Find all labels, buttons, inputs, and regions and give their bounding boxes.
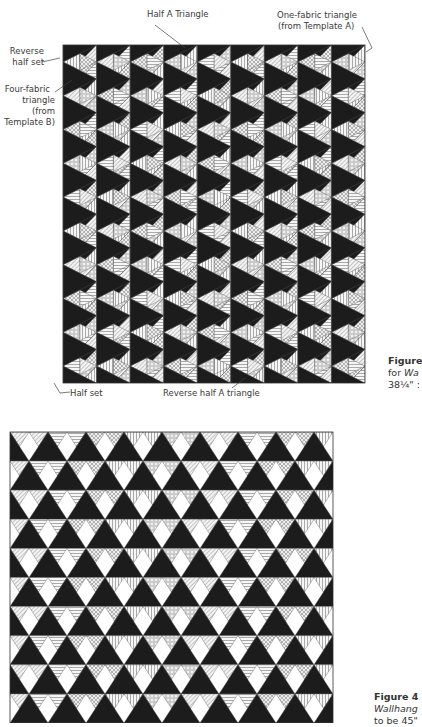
four-fabric-piece [343, 432, 362, 447]
four-fabric-piece [180, 400, 197, 417]
four-fabric-piece [298, 400, 315, 417]
one-fabric-triangle [0, 519, 10, 548]
four-fabric-piece [231, 20, 248, 37]
four-fabric-piece [197, 20, 214, 37]
one-fabric-triangle [0, 461, 10, 490]
four-fabric-piece [113, 28, 130, 45]
caption-bottom-italic: Wallhang [374, 703, 418, 714]
four-fabric-piece [0, 607, 10, 622]
four-fabric-piece [147, 383, 164, 400]
four-fabric-piece [180, 400, 197, 417]
four-fabric-piece [214, 28, 231, 45]
four-fabric-piece [214, 11, 231, 28]
four-fabric-piece [333, 665, 352, 680]
four-fabric-piece [130, 11, 147, 28]
four-fabric-piece [0, 592, 1, 607]
four-fabric-piece [147, 28, 164, 45]
four-fabric-piece [0, 534, 1, 549]
four-fabric-piece [298, 391, 315, 408]
four-fabric-piece [333, 519, 352, 534]
four-fabric-piece [331, 391, 348, 408]
four-fabric-piece [164, 20, 181, 37]
four-fabric-piece [231, 400, 248, 417]
one-fabric-triangle [298, 400, 332, 434]
four-fabric-piece [113, 383, 130, 400]
four-fabric-piece [348, 383, 365, 400]
four-fabric-piece [333, 636, 352, 651]
four-fabric-piece [0, 665, 10, 680]
four-fabric-piece [197, 28, 214, 45]
four-fabric-piece [0, 476, 1, 491]
four-fabric-piece [214, 400, 231, 417]
four-fabric-piece [0, 578, 1, 593]
four-fabric-piece [180, 20, 197, 37]
four-fabric-piece [264, 391, 281, 408]
four-fabric-piece [231, 28, 248, 45]
four-fabric-piece [333, 432, 352, 447]
four-fabric-piece [113, 11, 130, 28]
one-fabric-triangle [333, 665, 371, 694]
four-fabric-piece [281, 400, 298, 417]
caption-top-italic: Wa [404, 367, 419, 378]
four-fabric-piece [63, 28, 80, 45]
four-fabric-piece [348, 391, 365, 408]
four-fabric-piece [113, 400, 130, 417]
four-fabric-piece [348, 400, 365, 417]
label-reverse-half-a-triangle: Reverse half A triangle [163, 388, 260, 399]
one-fabric-triangle [97, 400, 131, 434]
four-fabric-piece [164, 400, 181, 417]
four-fabric-piece [333, 548, 352, 563]
four-fabric-piece [231, 400, 248, 417]
four-fabric-piece [343, 607, 362, 622]
one-fabric-triangle [164, 400, 198, 434]
four-fabric-piece [130, 28, 147, 45]
label-four-fabric-line2: triangle [0, 95, 55, 106]
four-fabric-piece [97, 11, 114, 28]
four-fabric-piece [97, 400, 114, 417]
four-fabric-piece [97, 28, 114, 45]
one-fabric-triangle [333, 607, 371, 636]
one-fabric-triangle [333, 490, 371, 519]
four-fabric-piece [147, 28, 164, 45]
four-fabric-piece [214, 28, 231, 45]
four-fabric-piece [0, 578, 10, 593]
four-fabric-piece [315, 383, 332, 400]
label-one-fabric-line1: One-fabric triangle [277, 10, 357, 21]
four-fabric-piece [343, 563, 362, 578]
four-fabric-piece [298, 400, 315, 417]
four-fabric-piece [0, 548, 10, 563]
four-fabric-piece [80, 20, 97, 37]
four-fabric-piece [0, 519, 10, 534]
four-fabric-piece [147, 391, 164, 408]
four-fabric-piece [197, 400, 214, 417]
figure-bottom-quilt [0, 432, 371, 723]
caption-top: Figure for Wa 38¼" : [388, 355, 422, 391]
label-four-fabric-line1: Four-fabric [0, 84, 50, 95]
four-fabric-piece [331, 383, 348, 400]
four-fabric-piece [264, 383, 281, 400]
four-fabric-piece [281, 400, 298, 417]
four-fabric-piece [80, 28, 97, 45]
four-fabric-piece [315, 400, 332, 417]
four-fabric-piece [130, 400, 147, 417]
figure-top-quilt [63, 11, 365, 434]
four-fabric-piece [63, 11, 80, 28]
four-fabric-piece [348, 400, 365, 417]
four-fabric-piece [352, 665, 371, 680]
four-fabric-piece [164, 400, 181, 417]
one-fabric-triangle [130, 400, 164, 434]
one-fabric-triangle [0, 636, 10, 665]
four-fabric-piece [343, 548, 362, 563]
label-half-set: Half set [70, 388, 103, 399]
four-fabric-piece [0, 694, 10, 709]
four-fabric-piece [180, 28, 197, 45]
four-fabric-piece [0, 461, 10, 476]
four-fabric-piece [352, 432, 371, 447]
label-half-a-triangle: Half A Triangle [147, 9, 209, 20]
four-fabric-piece [97, 28, 114, 45]
four-fabric-piece [333, 461, 352, 476]
four-fabric-piece [197, 28, 214, 45]
four-fabric-piece [63, 400, 80, 417]
caption-bottom-title: Figure 4 [374, 691, 418, 702]
